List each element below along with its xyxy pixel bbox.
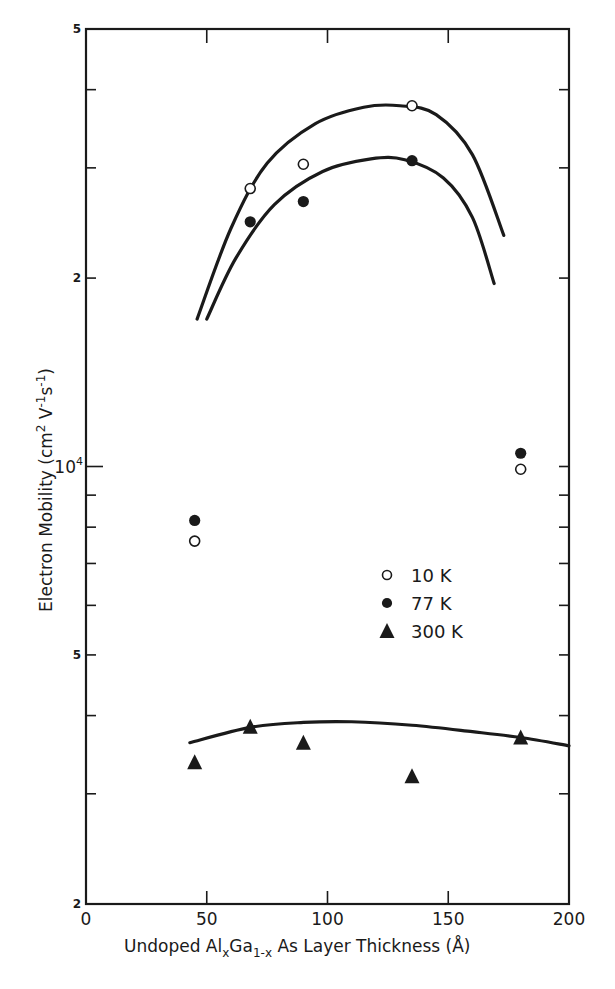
x-tick-labels: 050100150200 bbox=[81, 909, 586, 929]
data-point bbox=[245, 216, 256, 227]
data-point bbox=[405, 768, 420, 783]
y-tick-label: 5 bbox=[73, 648, 81, 662]
legend-label: 77 K bbox=[411, 593, 453, 614]
legend-marker bbox=[383, 571, 392, 580]
data-point bbox=[187, 754, 202, 769]
fit-curves bbox=[190, 105, 569, 746]
x-tick-label: 200 bbox=[553, 909, 585, 929]
x-tick-label: 150 bbox=[432, 909, 464, 929]
legend-label: 10 K bbox=[411, 565, 453, 586]
x-tick-label: 0 bbox=[81, 909, 92, 929]
y-tick-labels: 5210452 bbox=[54, 22, 83, 911]
y-axis-title: Electron Mobility (cm2 V-1s-1) bbox=[34, 368, 56, 612]
fit-curve-10k bbox=[197, 105, 504, 319]
axes-box bbox=[86, 29, 569, 904]
legend-marker bbox=[380, 623, 395, 638]
legend: 10 K77 K300 K bbox=[380, 565, 465, 642]
data-point bbox=[245, 184, 255, 194]
plot-frame bbox=[86, 29, 569, 904]
data-points bbox=[187, 101, 528, 783]
data-point bbox=[296, 735, 311, 750]
legend-label: 300 K bbox=[411, 621, 464, 642]
y-tick-label: 2 bbox=[73, 897, 81, 911]
legend-marker bbox=[382, 598, 392, 608]
data-point bbox=[189, 515, 200, 526]
data-point bbox=[516, 464, 526, 474]
data-point bbox=[298, 159, 308, 169]
data-point bbox=[406, 155, 417, 166]
fit-curve-77k bbox=[207, 157, 494, 319]
x-axis-title: Undoped AlxGa1-x As Layer Thickness (Å) bbox=[124, 935, 470, 960]
axis-ticks bbox=[86, 29, 569, 904]
x-tick-label: 100 bbox=[311, 909, 343, 929]
data-point bbox=[407, 101, 417, 111]
data-point bbox=[515, 448, 526, 459]
y-tick-label: 5 bbox=[73, 22, 81, 36]
data-point bbox=[190, 536, 200, 546]
y-tick-label: 104 bbox=[54, 455, 83, 477]
data-point bbox=[298, 196, 309, 207]
y-tick-label: 2 bbox=[73, 271, 81, 285]
x-tick-label: 50 bbox=[196, 909, 218, 929]
chart: 050100150200 5210452 10 K77 K300 K Undop… bbox=[0, 0, 615, 989]
